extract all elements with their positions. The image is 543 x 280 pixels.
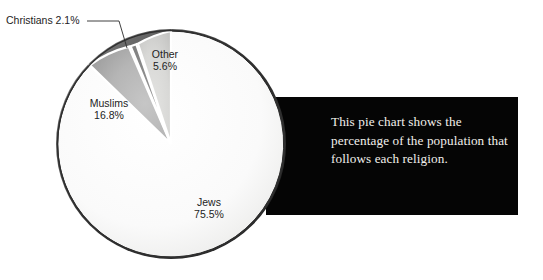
pie-label-muslims: Muslims 16.8%	[78, 97, 140, 121]
callout-text: This pie chart shows the percentage of t…	[331, 113, 511, 169]
pie-label-jews: Jews 75.5%	[182, 196, 236, 220]
pie-chart-figure: This pie chart shows the percentage of t…	[0, 0, 543, 280]
pie-label-muslims-value: 16.8%	[78, 109, 140, 121]
pie-label-jews-name: Jews	[197, 196, 221, 208]
pie-label-christians: Christians 2.1%	[6, 14, 80, 26]
pie-label-other-value: 5.6%	[138, 60, 192, 72]
pie-label-jews-value: 75.5%	[182, 208, 236, 220]
pie-label-other-name: Other	[152, 48, 178, 60]
christians-leader-line	[85, 10, 145, 55]
pie-label-muslims-name: Muslims	[90, 97, 129, 109]
pie-label-other: Other 5.6%	[138, 48, 192, 72]
